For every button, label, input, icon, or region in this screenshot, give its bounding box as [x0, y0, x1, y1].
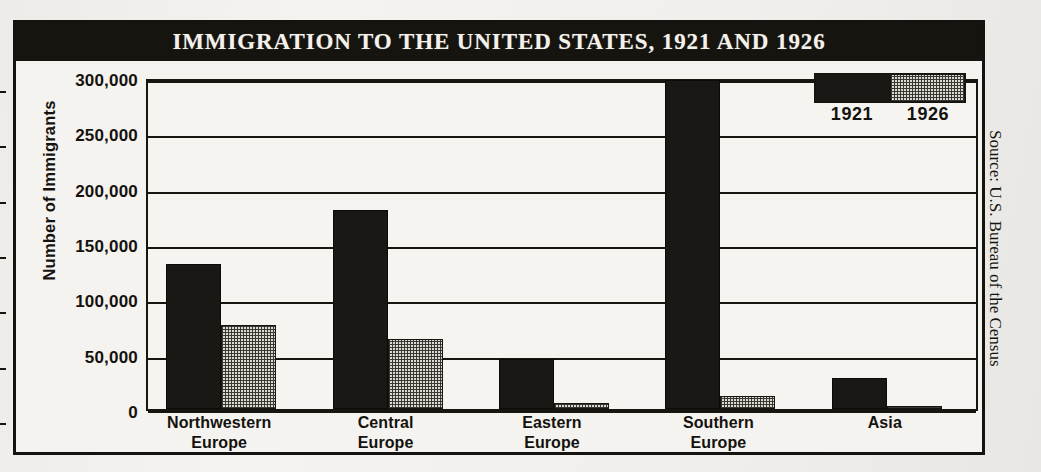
x-axis-label-line1: Eastern	[482, 413, 622, 433]
x-axis-label-line1: Asia	[815, 413, 955, 433]
x-axis-label: EasternEurope	[482, 413, 622, 454]
gridline	[148, 192, 976, 194]
x-axis-category-labels: NorthwesternEuropeCentralEuropeEasternEu…	[146, 413, 978, 471]
x-axis-label-line1: Central	[316, 413, 456, 433]
x-axis-label-line2: Europe	[648, 433, 788, 453]
y-axis-tick-label: 300,000	[6, 71, 138, 91]
plot-area: 050,000100,000150,000200,000250,000300,0…	[146, 79, 978, 411]
gridline	[148, 247, 976, 249]
y-axis-tick-label: 150,000	[6, 237, 138, 257]
y-axis-tick-mark	[0, 146, 6, 148]
y-axis-tick-mark	[0, 368, 6, 370]
x-axis-label: Asia	[815, 413, 955, 433]
y-axis-tick-mark	[0, 91, 6, 93]
y-axis-tick-label: 0	[6, 403, 138, 423]
bar-1926-southern-europe	[720, 396, 775, 409]
x-axis-label-line1: Southern	[648, 413, 788, 433]
scanned-page-background: IMMIGRATION TO THE UNITED STATES, 1921 A…	[0, 0, 1041, 472]
x-axis-label: CentralEurope	[316, 413, 456, 454]
y-axis-tick-label: 200,000	[6, 182, 138, 202]
y-axis-tick-label: 50,000	[6, 348, 138, 368]
bar-1921-asia	[832, 378, 887, 409]
x-axis-label: NorthwesternEurope	[149, 413, 289, 454]
chart-title-banner: IMMIGRATION TO THE UNITED STATES, 1921 A…	[16, 23, 982, 61]
page-title: IMMIGRATION TO THE UNITED STATES, 1921 A…	[172, 29, 825, 55]
gridline	[148, 302, 976, 304]
bar-1926-asia	[887, 406, 942, 409]
source-note: Source: U.S. Bureau of the Census	[985, 130, 1005, 450]
y-axis-tick-mark	[0, 423, 6, 425]
y-axis-tick-label: 100,000	[6, 292, 138, 312]
bar-1921-northwestern-europe	[166, 264, 221, 409]
x-axis-label-line1: Northwestern	[149, 413, 289, 433]
bar-1921-eastern-europe	[499, 359, 554, 409]
bar-1926-central-europe	[388, 339, 443, 409]
legend-swatch-1921	[816, 75, 889, 101]
legend-label-row: 1921 1926	[814, 104, 966, 125]
legend-label-1921: 1921	[814, 104, 890, 125]
y-axis-tick-mark	[0, 202, 6, 204]
bar-1926-northwestern-europe	[221, 325, 276, 409]
gridline	[148, 136, 976, 138]
bar-1926-eastern-europe	[554, 403, 609, 409]
y-axis-tick-label: 250,000	[6, 126, 138, 146]
bar-1921-southern-europe	[665, 80, 720, 409]
chart-figure: IMMIGRATION TO THE UNITED STATES, 1921 A…	[13, 20, 985, 455]
legend-swatch-1926	[889, 75, 964, 101]
x-axis-label: SouthernEurope	[648, 413, 788, 454]
x-axis-label-line2: Europe	[482, 433, 622, 453]
chart-legend: 1921 1926	[814, 73, 966, 125]
legend-label-1926: 1926	[890, 104, 966, 125]
y-axis-tick-mark	[0, 257, 6, 259]
x-axis-label-line2: Europe	[149, 433, 289, 453]
legend-swatch-box	[814, 73, 966, 103]
y-axis-tick-mark	[0, 312, 6, 314]
chart-body: Number of Immigrants 050,000100,000150,0…	[16, 61, 982, 452]
x-axis-label-line2: Europe	[316, 433, 456, 453]
bar-1921-central-europe	[333, 210, 388, 409]
